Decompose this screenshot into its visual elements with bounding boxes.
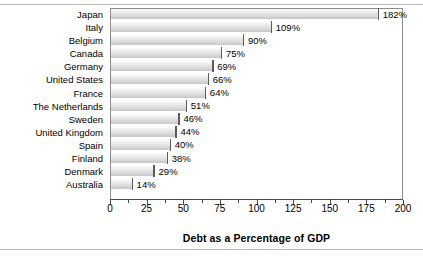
bar-chart-figure: Japan182%Italy109%Belgium90%Canada75%Ger… — [0, 0, 423, 260]
x-tick-label: 100 — [248, 203, 265, 214]
bar-wrapper: 69% — [111, 61, 404, 71]
bar-value-label: 75% — [222, 47, 245, 60]
bar-row: Belgium90% — [0, 34, 423, 47]
bar-row: The Netherlands51% — [0, 100, 423, 113]
x-tick-label: 200 — [395, 203, 412, 214]
bar-wrapper: 51% — [111, 101, 404, 111]
bar-row: Denmark29% — [0, 165, 423, 178]
bar-row: Spain40% — [0, 139, 423, 152]
bar — [111, 140, 170, 150]
bottom-divider-rule — [0, 249, 423, 250]
category-label: Australia — [0, 178, 103, 191]
bar-value-label: 14% — [133, 178, 156, 191]
category-label: Finland — [0, 152, 103, 165]
category-label: United Kingdom — [0, 126, 103, 139]
category-label: Italy — [0, 21, 103, 34]
bar-wrapper: 44% — [111, 127, 404, 137]
x-tick-label: 75 — [214, 203, 225, 214]
bar-value-label: 90% — [244, 34, 267, 47]
top-divider-rule — [0, 4, 423, 5]
bar-wrapper: 66% — [111, 74, 404, 84]
bar — [111, 22, 271, 32]
category-label: Canada — [0, 47, 103, 60]
bar-row: Finland38% — [0, 152, 423, 165]
category-label: France — [0, 87, 103, 100]
bar-row: Sweden46% — [0, 113, 423, 126]
x-tick-minor — [311, 200, 312, 203]
category-label: Spain — [0, 139, 103, 152]
bar-row: Italy109% — [0, 21, 423, 34]
x-tick-label: 50 — [178, 203, 189, 214]
bar-wrapper: 75% — [111, 48, 404, 58]
bar-value-label: 38% — [168, 152, 191, 165]
bar-rows-container: Japan182%Italy109%Belgium90%Canada75%Ger… — [0, 8, 423, 192]
x-axis-title: Debt as a Percentage of GDP — [110, 232, 403, 244]
bar-wrapper: 14% — [111, 179, 404, 189]
bar — [111, 179, 132, 189]
bar-value-label: 64% — [206, 86, 229, 99]
bar — [111, 153, 167, 163]
bar — [111, 9, 378, 19]
x-tick-label: 125 — [285, 203, 302, 214]
bar-row: Canada75% — [0, 47, 423, 60]
bar-row: United Kingdom44% — [0, 126, 423, 139]
x-tick-minor — [275, 200, 276, 203]
bar-wrapper: 40% — [111, 140, 404, 150]
bar — [111, 114, 178, 124]
category-label: Belgium — [0, 34, 103, 47]
x-tick-minor — [238, 200, 239, 203]
bar-row: Japan182% — [0, 8, 423, 21]
bar-row: Australia14% — [0, 178, 423, 191]
bar — [111, 48, 221, 58]
bar — [111, 61, 212, 71]
bar-value-label: 69% — [214, 60, 237, 73]
x-tick-minor — [165, 200, 166, 203]
bar — [111, 101, 186, 111]
bar-value-label: 66% — [209, 73, 232, 86]
bar-value-label: 109% — [272, 21, 300, 34]
bar-row: United States66% — [0, 73, 423, 86]
bar — [111, 88, 205, 98]
bar-value-label: 29% — [155, 165, 178, 178]
bar-row: France64% — [0, 87, 423, 100]
x-tick-minor — [202, 200, 203, 203]
x-tick-label: 175 — [358, 203, 375, 214]
x-tick-minor — [385, 200, 386, 203]
bar-wrapper: 46% — [111, 114, 404, 124]
category-label: Germany — [0, 60, 103, 73]
x-tick-minor — [128, 200, 129, 203]
x-tick-label: 25 — [141, 203, 152, 214]
bar — [111, 35, 243, 45]
bar-value-label: 51% — [187, 99, 210, 112]
category-label: United States — [0, 73, 103, 86]
bar-value-label: 182% — [379, 8, 407, 21]
bar — [111, 166, 153, 176]
x-tick-minor — [348, 200, 349, 203]
bar-wrapper: 64% — [111, 88, 404, 98]
bar-wrapper: 182% — [111, 9, 404, 19]
bar-wrapper: 109% — [111, 22, 404, 32]
category-label: Sweden — [0, 113, 103, 126]
bar-value-label: 46% — [180, 112, 203, 125]
bar — [111, 127, 175, 137]
bar-wrapper: 29% — [111, 166, 404, 176]
x-tick-label: 0 — [107, 203, 113, 214]
bar-value-label: 44% — [177, 125, 200, 138]
category-label: The Netherlands — [0, 100, 103, 113]
bar-wrapper: 38% — [111, 153, 404, 163]
bar — [111, 74, 208, 84]
bar-value-label: 40% — [171, 138, 194, 151]
bar-row: Germany69% — [0, 60, 423, 73]
bar-wrapper: 90% — [111, 35, 404, 45]
category-label: Denmark — [0, 165, 103, 178]
category-label: Japan — [0, 8, 103, 21]
x-tick-label: 150 — [321, 203, 338, 214]
